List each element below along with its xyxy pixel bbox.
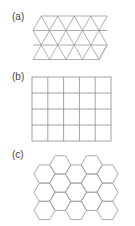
- hexagonal-lattice: [0, 0, 135, 226]
